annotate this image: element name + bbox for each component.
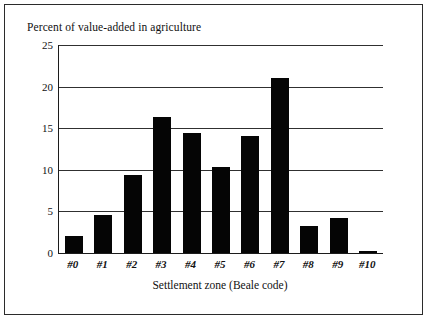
x-tick-label-7: #7 (264, 258, 293, 270)
y-tick-label-20: 20 (42, 81, 53, 93)
x-tick-label-4: #4 (176, 258, 205, 270)
chart-title: Percent of value-added in agriculture (27, 21, 201, 33)
bar-slot-3 (147, 45, 176, 253)
bar-slot-7 (265, 45, 294, 253)
y-tick-label-10: 10 (42, 164, 53, 176)
bar-slot-1 (88, 45, 117, 253)
bar-1 (94, 215, 112, 253)
bar-slot-4 (177, 45, 206, 253)
y-tick-label-0: 0 (48, 247, 54, 259)
y-tick-label-5: 5 (48, 205, 54, 217)
y-tick-label-15: 15 (42, 122, 53, 134)
bar-8 (300, 226, 318, 253)
x-tick-label-1: #1 (87, 258, 116, 270)
bar-slot-6 (236, 45, 265, 253)
bar-7 (271, 78, 289, 253)
x-axis-title: Settlement zone (Beale code) (58, 279, 382, 291)
figure-frame: Percent of value-added in agriculture 05… (4, 4, 423, 315)
plot-area: 0510152025 (58, 45, 383, 254)
x-tick-label-8: #8 (294, 258, 323, 270)
x-tick-label-2: #2 (117, 258, 146, 270)
x-axis-ticks: #0#1#2#3#4#5#6#7#8#9#10 (58, 258, 382, 270)
x-tick-label-5: #5 (205, 258, 234, 270)
x-tick-label-10: #10 (353, 258, 382, 270)
x-tick-label-3: #3 (146, 258, 175, 270)
x-tick-label-0: #0 (58, 258, 87, 270)
bar-5 (212, 167, 230, 253)
bar-slot-8 (295, 45, 324, 253)
bar-10 (359, 251, 377, 253)
x-tick-label-6: #6 (235, 258, 264, 270)
y-tick-label-25: 25 (42, 39, 53, 51)
bar-4 (183, 133, 201, 253)
bar-2 (124, 175, 142, 253)
bar-slot-10 (354, 45, 383, 253)
x-tick-label-9: #9 (323, 258, 352, 270)
bar-series (59, 45, 383, 253)
bar-0 (65, 236, 83, 253)
bar-3 (153, 117, 171, 253)
bar-slot-2 (118, 45, 147, 253)
bar-slot-0 (59, 45, 88, 253)
bar-slot-9 (324, 45, 353, 253)
bar-slot-5 (206, 45, 235, 253)
bar-9 (330, 218, 348, 253)
bar-6 (241, 136, 259, 253)
